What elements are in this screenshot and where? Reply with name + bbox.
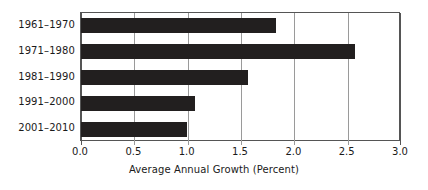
x-axis-tick-0.0: 0.0 bbox=[72, 146, 88, 157]
bar-row bbox=[81, 13, 276, 39]
x-axis-tick-2.5: 2.5 bbox=[339, 146, 355, 157]
y-axis-label-1991–2000: 1991–2000 bbox=[0, 89, 75, 115]
x-axis-tick-0.5: 0.5 bbox=[125, 146, 141, 157]
gridline-3.0 bbox=[400, 13, 401, 145]
y-axis-label-2001–2010: 2001–2010 bbox=[0, 115, 75, 141]
x-axis-tick-1.0: 1.0 bbox=[179, 146, 195, 157]
x-axis-tick-2.0: 2.0 bbox=[285, 146, 301, 157]
plot-area bbox=[80, 12, 400, 141]
bar-1971–1980 bbox=[81, 44, 355, 59]
bar-row bbox=[81, 65, 248, 91]
bar-row bbox=[81, 90, 195, 116]
bar-chart: 1961–19701971–19801981–19901991–20002001… bbox=[0, 0, 428, 190]
bar-row bbox=[81, 39, 355, 65]
x-axis-title: Average Annual Growth (Percent) bbox=[0, 164, 428, 175]
bar-1991–2000 bbox=[81, 96, 195, 111]
y-axis-category-labels: 1961–19701971–19801981–19901991–20002001… bbox=[0, 12, 75, 141]
y-axis-label-1961–1970: 1961–1970 bbox=[0, 12, 75, 38]
y-axis-label-1971–1980: 1971–1980 bbox=[0, 38, 75, 64]
x-axis-tick-1.5: 1.5 bbox=[232, 146, 248, 157]
x-axis-tick-3.0: 3.0 bbox=[392, 146, 408, 157]
bar-1981–1990 bbox=[81, 70, 248, 85]
x-axis-tick-labels: 0.00.51.01.52.02.53.0 bbox=[80, 146, 400, 160]
bar-1961–1970 bbox=[81, 18, 276, 33]
bars bbox=[81, 13, 399, 140]
bar-2001–2010 bbox=[81, 122, 187, 137]
bar-row bbox=[81, 116, 187, 142]
y-axis-label-1981–1990: 1981–1990 bbox=[0, 64, 75, 90]
